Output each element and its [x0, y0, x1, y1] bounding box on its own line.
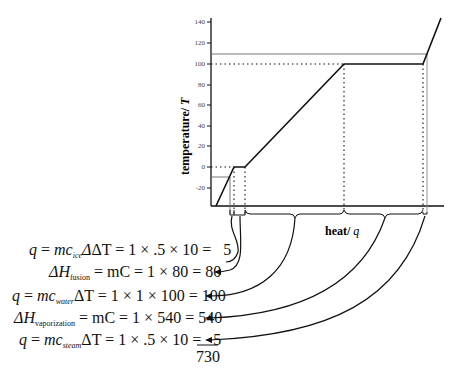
y-axis-label: temperature/ T	[178, 97, 192, 175]
equation-vaporization: ΔHvaporization = mC = 1 × 540 = 540	[14, 310, 222, 328]
equation-water: q = mcwaterΔT = 1 × 1 × 100 = 100	[12, 288, 226, 306]
total-heat: 730	[196, 348, 220, 366]
equation-ice: q = mciceΔΔT = 1 × .5 × 10 = 5	[29, 242, 231, 260]
arrows	[210, 216, 425, 340]
svg-text:0: 0	[202, 163, 206, 171]
svg-text:100: 100	[195, 60, 206, 68]
svg-text:80: 80	[198, 81, 206, 89]
svg-text:20: 20	[198, 142, 206, 150]
svg-text:60: 60	[198, 101, 206, 109]
svg-text:120: 120	[195, 39, 206, 47]
x-axis-label: heat/ q	[325, 224, 359, 238]
heating-curve	[216, 18, 441, 206]
segment-braces	[230, 210, 427, 218]
equation-fusion: ΔHfusion = mC = 1 × 80 = 80	[49, 264, 221, 282]
equation-steam: q = mcsteamΔT = 1 × .5 × 10 = 5	[19, 332, 221, 350]
svg-text:-20: -20	[196, 184, 206, 192]
y-tick-labels: 140 120 100 80 60 40 20 0 -20	[195, 18, 206, 192]
svg-text:40: 40	[198, 122, 206, 130]
svg-text:140: 140	[195, 18, 206, 26]
